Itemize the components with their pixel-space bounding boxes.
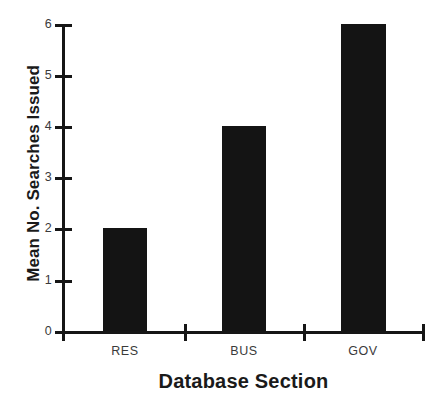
y-tick-5	[55, 75, 72, 78]
y-tick-1	[55, 280, 72, 283]
bar-bus	[222, 126, 266, 332]
x-tick-end	[422, 324, 425, 341]
x-tick-1	[184, 324, 187, 341]
y-tick-3	[55, 177, 72, 180]
bar-res	[103, 228, 147, 332]
y-axis-title: Mean No. Searches Issued	[25, 23, 44, 323]
x-tick-start	[62, 324, 65, 341]
y-tick-6	[55, 24, 72, 27]
bar-gov	[341, 24, 386, 332]
x-tick-label-gov: GOV	[323, 345, 403, 358]
x-tick-label-bus: BUS	[204, 345, 284, 358]
y-tick-label-0: 0	[30, 325, 52, 338]
y-tick-2	[55, 228, 72, 231]
x-axis-title: Database Section	[62, 370, 425, 392]
y-tick-4	[55, 126, 72, 129]
bar-chart: 6 5 4 3 2 1 0 RES BUS GOV Database Secti…	[0, 0, 445, 403]
x-axis-line	[62, 331, 425, 334]
x-tick-label-res: RES	[85, 345, 165, 358]
y-tick-label-0-wrap: 0	[10, 325, 52, 339]
x-tick-2	[303, 324, 306, 341]
